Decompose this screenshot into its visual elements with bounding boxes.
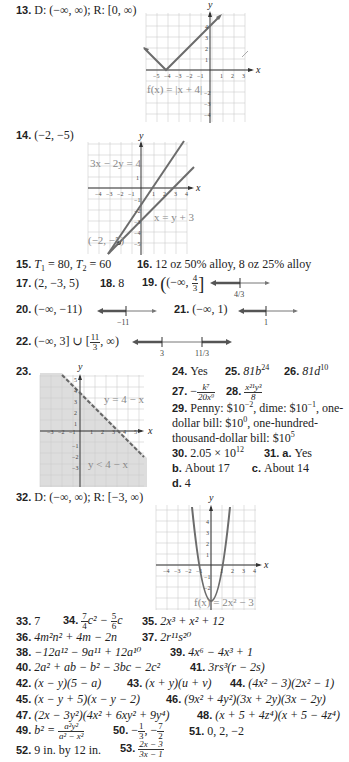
svg-text:2: 2 xyxy=(231,568,234,574)
svg-text:4: 4 xyxy=(206,519,209,525)
answer-number: 28. xyxy=(226,385,241,397)
answer-number: 33. xyxy=(16,615,31,627)
tick-label: 1 xyxy=(264,318,268,327)
part-label: d. xyxy=(172,477,182,489)
answer-20: 20.(−∞, −11) xyxy=(16,302,82,316)
svg-text:−4: −4 xyxy=(204,112,210,118)
svg-text:2: 2 xyxy=(231,73,234,79)
svg-text:−3: −3 xyxy=(47,429,53,435)
text: , one-hundred- xyxy=(247,416,318,430)
svg-text:−2: −2 xyxy=(72,454,78,460)
answer-text: (x − y)(5 − a) xyxy=(34,676,101,690)
answer-text: 9 in. by 12 in. xyxy=(34,743,101,757)
svg-text:1: 1 xyxy=(74,421,77,427)
answer-46: 46.(9x² + 4y²)(3x + 2y)(3x − 2y) xyxy=(166,692,326,706)
answer-number: 50. xyxy=(113,724,128,736)
answer-48: 48.(x + 5 + 4z⁴)(x + 5 − 4z⁴) xyxy=(197,708,340,722)
numerator: 7 xyxy=(157,722,164,731)
answer-text: (−2, −5) xyxy=(34,128,74,142)
answer-number: 40. xyxy=(16,661,31,673)
exponent: −2 xyxy=(245,400,254,409)
answer-text: (x + y)(u + v) xyxy=(145,676,211,690)
answer-31-b-c: b.About 17 c.About 14 xyxy=(172,461,309,475)
svg-text:−3: −3 xyxy=(106,191,112,197)
graph-32-parabola: x y −4−3−2−11234 4321−1−2 f(x) = 2x² − 3 xyxy=(156,503,268,611)
answer-number: 44. xyxy=(230,677,245,689)
svg-text:2: 2 xyxy=(206,541,209,547)
base: 2.05 × 10 xyxy=(190,446,236,460)
boundary-label: y = 4 − x xyxy=(104,393,144,405)
answer-number: 32. xyxy=(16,491,31,503)
svg-text:4: 4 xyxy=(123,429,126,435)
answer-21: 21.(−∞, 1) xyxy=(174,302,228,316)
svg-text:−1: −1 xyxy=(197,73,203,79)
answer-text: (4x² − 3)(2x² − 1) xyxy=(248,676,334,690)
svg-text:3: 3 xyxy=(112,429,115,435)
answer-29-line2: dollar bill: $100, one-hundred- xyxy=(172,416,318,430)
answer-number: 49. xyxy=(16,724,31,736)
answer-24: 24.Yes xyxy=(172,364,208,378)
part-text: About 17 xyxy=(185,461,230,475)
answer-number: 46. xyxy=(166,693,181,705)
svg-text:−2: −2 xyxy=(58,429,64,435)
exponent: 24 xyxy=(261,363,269,372)
svg-text:2: 2 xyxy=(101,429,104,435)
answer-number: 14. xyxy=(16,129,31,141)
answer-34: 34.74c² − 56c xyxy=(63,612,123,631)
graph-23-inequality: x y −3−2−112345 54321−1−2−3 y = 4 − x y … xyxy=(40,373,152,488)
answer-text: 0, 2, −2 xyxy=(207,724,244,738)
svg-text:1: 1 xyxy=(90,429,93,435)
answer-number: 31. xyxy=(264,447,279,459)
answer-number: 15. xyxy=(16,258,31,270)
answer-number: 52. xyxy=(16,744,31,756)
intersection-label: (−2, −5) xyxy=(88,234,125,247)
base: 81d xyxy=(302,364,320,378)
answer-35: 35.2x³ + x² + 12 xyxy=(142,614,224,628)
svg-text:−2: −2 xyxy=(134,208,140,214)
tick-label: 3 xyxy=(160,349,164,358)
svg-text:−5: −5 xyxy=(134,241,140,247)
svg-text:1: 1 xyxy=(136,175,139,181)
svg-text:3: 3 xyxy=(242,73,245,79)
number-line-21: 1 xyxy=(238,303,298,327)
answer-27: 27.−k⁷20x⁹ xyxy=(172,383,215,402)
answer-number: 16. xyxy=(137,258,152,270)
number-line-22: 3 11/3 xyxy=(132,334,232,358)
sign: − xyxy=(190,384,197,398)
svg-text:2: 2 xyxy=(163,191,166,197)
answer-number: 48. xyxy=(197,709,212,721)
value: = 80, xyxy=(45,257,76,271)
svg-text:1: 1 xyxy=(152,191,155,197)
text: , dime: $10 xyxy=(253,401,307,415)
variable: T xyxy=(34,257,41,271)
svg-text:1: 1 xyxy=(220,568,223,574)
svg-text:2: 2 xyxy=(205,46,208,52)
answer-25: 25.81b24 xyxy=(225,364,269,378)
answer-number: 39. xyxy=(170,646,185,658)
answer-text: 2x³ + x² + 12 xyxy=(160,614,224,628)
y-axis-label: y xyxy=(138,130,144,141)
answer-text: (−∞, 1) xyxy=(192,302,227,316)
exponent: 10 xyxy=(320,363,328,372)
y-axis-label: y xyxy=(77,361,83,372)
y-axis-label: y xyxy=(207,0,213,10)
svg-text:−1: −1 xyxy=(196,568,202,574)
answer-text: 2a² + ab − b² − 3bc − 2c² xyxy=(34,660,160,674)
svg-text:−3: −3 xyxy=(134,219,140,225)
text: , one- xyxy=(316,401,343,415)
numerator: x²¹y³ xyxy=(244,383,262,392)
answer-31-d: d.4 xyxy=(172,476,191,490)
number-line-19: 4/3 xyxy=(210,275,270,299)
answer-text: (2x − 3y²)(4x² + 6xy² + 9y⁴) xyxy=(34,708,169,722)
answer-text: 2r¹¹s²⁰ xyxy=(160,630,191,644)
answer-text: (−∞, −11) xyxy=(34,302,82,316)
answer-number: 42. xyxy=(16,677,31,689)
svg-text:−3: −3 xyxy=(204,101,210,107)
answer-text: 4x⁶ − 4x³ + 1 xyxy=(188,645,253,659)
equation-label-1: 3x − 2y = 4 xyxy=(90,157,141,169)
text: dollar bill: $10 xyxy=(172,416,243,430)
answer-text: 4m²n² + 4m − 2n xyxy=(34,630,117,644)
svg-text:−3: −3 xyxy=(175,73,181,79)
answer-30: 30.2.05 × 1012 xyxy=(172,446,244,460)
svg-text:−1: −1 xyxy=(69,429,75,435)
